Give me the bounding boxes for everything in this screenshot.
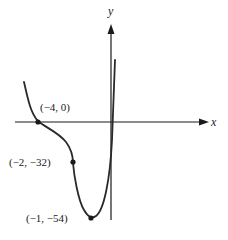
y-axis-label: y bbox=[108, 5, 113, 17]
polynomial-graph bbox=[0, 0, 228, 240]
y-axis-arrow-icon bbox=[108, 24, 115, 34]
function-curve bbox=[24, 60, 115, 217]
point-label-neg4-0: (−4, 0) bbox=[40, 102, 70, 113]
x-axis-arrow-icon bbox=[199, 119, 209, 126]
point-label-neg1-neg54: (−1, −54) bbox=[26, 213, 68, 224]
point-neg1-neg54 bbox=[88, 215, 93, 220]
x-axis-label: x bbox=[211, 116, 216, 128]
point-neg2-neg32 bbox=[70, 159, 75, 164]
point-neg4-0 bbox=[35, 119, 40, 124]
point-label-neg2-neg32: (−2, −32) bbox=[9, 157, 51, 168]
